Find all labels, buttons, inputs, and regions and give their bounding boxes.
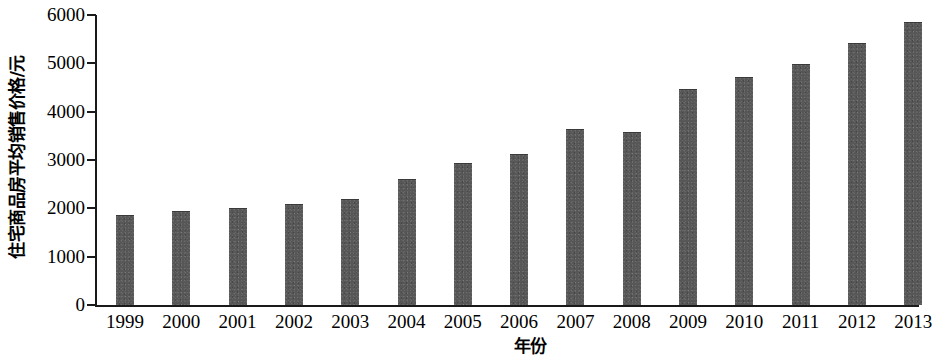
x-axis-tick-label: 2001 — [210, 310, 266, 333]
y-axis-tick — [87, 207, 96, 209]
y-axis-tick-label: 2000 — [21, 198, 85, 217]
bar — [848, 43, 866, 305]
y-axis-tick — [87, 111, 96, 113]
bar — [735, 77, 753, 305]
bar — [454, 163, 472, 305]
x-axis-tick-label: 2000 — [153, 310, 209, 333]
y-axis-tick — [87, 62, 96, 64]
y-axis-tick-label: 0 — [21, 295, 85, 314]
y-axis-tick-labels: 0100020003000400050006000 — [21, 15, 85, 305]
x-axis-tick-label: 2011 — [773, 310, 829, 333]
y-axis-tick — [87, 159, 96, 161]
y-axis-tick-label: 4000 — [21, 102, 85, 121]
bar — [510, 154, 528, 305]
x-axis-tick-label: 2008 — [604, 310, 660, 333]
bar — [566, 129, 584, 305]
x-axis-tick-label: 2005 — [435, 310, 491, 333]
x-axis-title: 年份 — [470, 336, 590, 356]
x-axis-tick-label: 2004 — [379, 310, 435, 333]
x-axis-tick-label: 2002 — [266, 310, 322, 333]
bar — [341, 199, 359, 305]
x-axis-tick-label: 2013 — [885, 310, 937, 333]
x-axis-tick-label: 2012 — [829, 310, 885, 333]
x-axis-tick-label: 1999 — [97, 310, 153, 333]
x-axis-tick-label: 2009 — [660, 310, 716, 333]
y-axis-tick-label: 1000 — [21, 247, 85, 266]
x-axis-tick-labels: 1999200020012002200320042005200620072008… — [95, 310, 919, 336]
bar — [285, 204, 303, 305]
bar — [172, 211, 190, 305]
bar — [792, 64, 810, 305]
bar — [116, 215, 134, 305]
y-axis-tick — [87, 256, 96, 258]
x-axis-tick-label: 2010 — [716, 310, 772, 333]
y-axis-tick — [87, 304, 96, 306]
x-axis-tick-label: 2003 — [322, 310, 378, 333]
bar — [398, 179, 416, 305]
y-axis-tick-label: 3000 — [21, 150, 85, 169]
x-axis-tick-label: 2006 — [491, 310, 547, 333]
y-axis-tick-label: 6000 — [21, 5, 85, 24]
plot-area — [95, 15, 919, 305]
y-axis-tick-label: 5000 — [21, 53, 85, 72]
y-axis-tick — [87, 14, 96, 16]
x-axis-tick-label: 2007 — [547, 310, 603, 333]
bar — [623, 132, 641, 305]
bar — [904, 22, 922, 305]
bar — [679, 89, 697, 305]
bar — [229, 208, 247, 305]
x-axis-line — [95, 305, 919, 307]
